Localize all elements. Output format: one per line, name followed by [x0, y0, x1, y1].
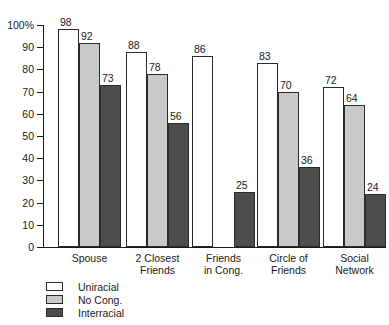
y-axis-tick-label: 100%: [7, 20, 34, 30]
y-axis-tick: [37, 47, 44, 48]
bar-interracial: [299, 167, 320, 247]
x-axis-label-line: Friends: [271, 264, 306, 276]
bar-value-label: 88: [128, 40, 140, 50]
y-axis-tick: [37, 203, 44, 204]
bar-value-label: 72: [325, 75, 337, 85]
y-axis-tick: [37, 158, 44, 159]
y-axis-tick: [37, 25, 44, 26]
y-axis-tick-label: 60: [22, 109, 34, 119]
x-axis-label-line: Friends: [140, 264, 175, 276]
x-axis-label-line: 2 Closest: [136, 252, 180, 264]
x-axis-label-line: Circle of: [269, 252, 308, 264]
legend-swatch-icon: [46, 308, 63, 317]
legend-label: No Cong.: [78, 294, 122, 306]
bar-value-label: 86: [194, 44, 206, 54]
y-axis-tick-label: 80: [22, 64, 34, 74]
legend-label: Uniracial: [78, 281, 119, 293]
bar-no-cong: [79, 43, 100, 247]
bar-value-label: 73: [102, 73, 114, 83]
y-axis-tick-label: 70: [22, 87, 34, 97]
legend-swatch-icon: [46, 282, 63, 291]
y-axis-tick-label: 20: [22, 198, 34, 208]
bar-uniracial: [126, 52, 147, 247]
bar-value-label: 78: [149, 62, 161, 72]
bar-value-label: 64: [346, 93, 358, 103]
x-axis-label-line: Spouse: [72, 252, 108, 264]
bar-no-cong: [344, 105, 365, 247]
y-axis-tick-label: 0: [28, 242, 34, 252]
bar-interracial: [168, 123, 189, 247]
x-axis-label-line: in Cong.: [204, 264, 243, 276]
y-axis-tick: [37, 69, 44, 70]
y-axis-tick: [37, 114, 44, 115]
y-axis-tick: [37, 92, 44, 93]
bar-chart: 0102030405060708090100% 9892738878568625…: [0, 0, 389, 325]
bar-value-label: 24: [367, 182, 379, 192]
bar-interracial: [234, 192, 255, 248]
y-axis-tick: [37, 247, 44, 248]
bar-no-cong: [278, 92, 299, 247]
x-axis-label-line: Friends: [206, 252, 241, 264]
bar-value-label: 25: [236, 180, 248, 190]
y-axis-tick: [37, 136, 44, 137]
y-axis-tick: [37, 225, 44, 226]
bar-value-label: 83: [259, 51, 271, 61]
bar-no-cong: [147, 74, 168, 247]
x-axis-category-label: SocialNetwork: [310, 252, 389, 276]
bar-value-label: 36: [301, 155, 313, 165]
legend-label: Interracial: [78, 307, 124, 319]
x-axis-label-line: Social: [340, 252, 369, 264]
legend-swatch-icon: [46, 295, 63, 304]
x-axis-label-line: Network: [335, 264, 374, 276]
bar-interracial: [365, 194, 386, 247]
bar-value-label: 56: [170, 111, 182, 121]
bar-uniracial: [192, 56, 213, 247]
plot-area: 9892738878568625837036726424: [44, 25, 385, 247]
y-axis-tick-label: 30: [22, 175, 34, 185]
bar-value-label: 98: [60, 17, 72, 27]
bar-interracial: [100, 85, 121, 247]
bar-uniracial: [58, 29, 79, 247]
y-axis-tick-label: 90: [22, 42, 34, 52]
bar-uniracial: [257, 63, 278, 247]
y-axis-tick-label: 50: [22, 131, 34, 141]
x-axis-line: [43, 247, 386, 248]
y-axis-tick: [37, 180, 44, 181]
bar-uniracial: [323, 87, 344, 247]
bar-value-label: 92: [81, 31, 93, 41]
bar-value-label: 70: [280, 80, 292, 90]
y-axis-tick-label: 10: [22, 220, 34, 230]
y-axis-tick-label: 40: [22, 153, 34, 163]
